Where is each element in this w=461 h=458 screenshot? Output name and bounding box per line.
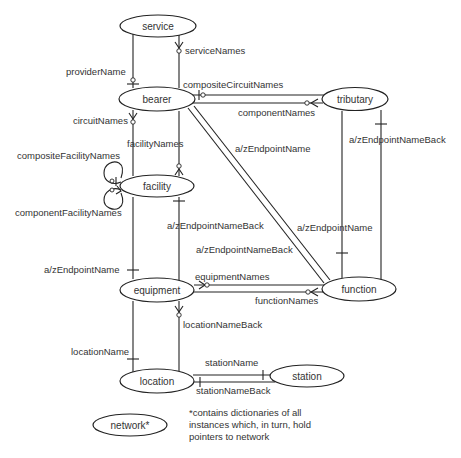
label-providerName: providerName	[66, 66, 126, 77]
optional-circle	[201, 93, 205, 97]
optional-circle	[205, 283, 209, 287]
label-componentNames: componentNames	[238, 107, 315, 118]
label-locationNameBack: locationNameBack	[183, 319, 262, 330]
node-service: service	[120, 15, 196, 37]
label-stationNameBack: stationNameBack	[196, 385, 271, 396]
label-tributary-azEndpointNameBack: a/zEndpointNameBack	[349, 134, 446, 145]
footnote-line-3: pointers to network	[189, 431, 270, 442]
optional-circle	[110, 179, 114, 183]
footnote-line-2: instances which, in turn, hold	[189, 419, 311, 430]
optional-circle	[110, 188, 114, 192]
label-componentFacilityNames: componentFacilityNames	[15, 207, 122, 218]
footnote-line-1: *contains dictionaries of all	[189, 407, 301, 418]
node-label: station	[292, 371, 321, 382]
node-label: network*	[111, 420, 150, 431]
label-circuitNames: circuitNames	[73, 115, 128, 126]
node-label: facility	[143, 181, 171, 192]
label-bearer-function-azEndpointName: a/zEndpointName	[235, 143, 311, 154]
label-stationName: stationName	[205, 357, 258, 368]
optional-circle	[177, 313, 181, 317]
node-equipment: equipment	[120, 278, 194, 302]
node-function: function	[322, 277, 396, 301]
label-compositeCircuitNames: compositeCircuitNames	[183, 79, 284, 90]
label-compositeFacilityNames: compositeFacilityNames	[17, 150, 120, 161]
node-label: service	[142, 21, 174, 32]
footnote: *contains dictionaries of all instances …	[189, 407, 311, 442]
node-bearer: bearer	[119, 87, 195, 111]
label-facility-azEndpointNameBack: a/zEndpointNameBack	[167, 220, 264, 231]
optional-circle	[305, 101, 309, 105]
label-serviceNames: serviceNames	[185, 45, 245, 56]
node-station: station	[270, 365, 344, 387]
label-equipment-azEndpointName: a/zEndpointName	[44, 264, 120, 275]
optional-circle	[177, 164, 181, 168]
label-facilityNames: facilityNames	[127, 138, 184, 149]
label-functionNames: functionNames	[255, 295, 319, 306]
optional-circle	[177, 49, 181, 53]
label-bearer-function-azEndpointNameBack: a/zEndpointNameBack	[196, 244, 293, 255]
optional-circle	[306, 290, 310, 294]
optional-circle	[131, 120, 135, 124]
edge-bearer-function-a	[188, 108, 324, 283]
node-label: tributary	[337, 94, 373, 105]
node-tributary: tributary	[322, 88, 388, 111]
node-label: bearer	[143, 94, 173, 105]
class-relationship-diagram: service bearer tributary facility equipm…	[0, 0, 461, 458]
label-equipmentNames: equipmentNames	[195, 271, 270, 282]
node-label: location	[140, 376, 174, 387]
node-network: network*	[93, 414, 167, 436]
node-label: equipment	[134, 285, 181, 296]
node-facility: facility	[120, 175, 194, 197]
label-function-azEndpointName: a/zEndpointName	[297, 222, 373, 233]
label-locationName: locationName	[71, 346, 129, 357]
node-location: location	[120, 369, 194, 393]
node-label: function	[341, 284, 376, 295]
optional-circle	[131, 78, 135, 82]
